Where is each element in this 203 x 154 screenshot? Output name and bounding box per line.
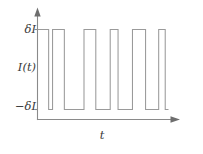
y-axis-lower-label: −δI — [0, 101, 36, 113]
telegraph-noise-figure: δI I(t) −δI t — [0, 0, 203, 154]
y-axis-upper-label: δI — [6, 24, 36, 36]
y-axis-title-label: I(t) — [4, 62, 36, 74]
x-axis-arrow-icon — [171, 116, 181, 123]
axes-group — [34, 8, 180, 123]
signal-waveform — [38, 30, 169, 110]
x-axis-title-label: t — [92, 130, 112, 142]
y-axis-arrow-icon — [34, 8, 40, 17]
